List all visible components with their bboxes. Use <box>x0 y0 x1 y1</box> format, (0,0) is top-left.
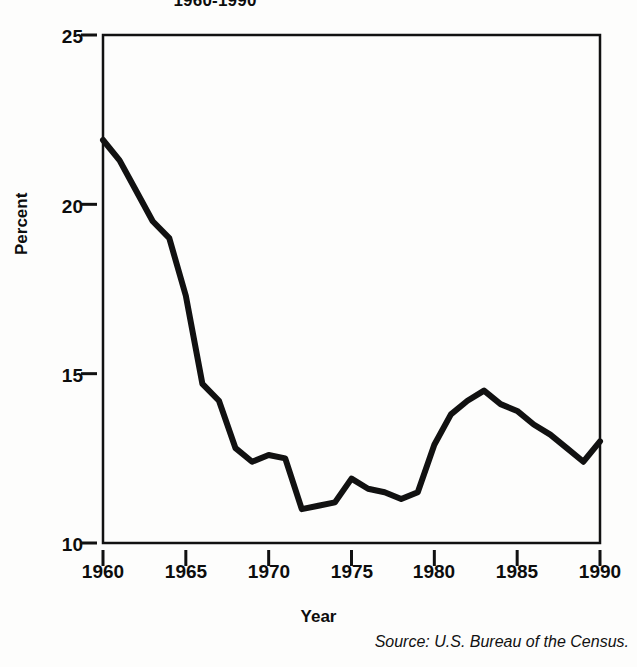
data-line-series <box>103 140 600 509</box>
plot-area <box>0 0 637 667</box>
x-axis-ticks <box>103 550 600 566</box>
plot-frame <box>103 35 600 543</box>
source-note: Source: U.S. Bureau of the Census. <box>375 633 629 651</box>
y-axis-ticks <box>81 35 97 543</box>
chart-figure: 1960-1990 Percent 25 20 15 10 1960 1965 … <box>0 0 637 667</box>
x-axis-title: Year <box>0 607 637 627</box>
